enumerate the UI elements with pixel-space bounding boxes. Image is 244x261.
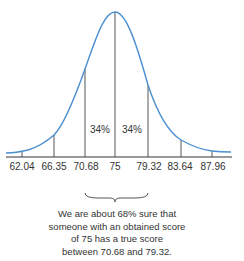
caption: We are about 68% sure that someone with … — [0, 208, 234, 258]
bell-curve — [6, 12, 231, 153]
tick-label: 79.32 — [136, 161, 161, 172]
percent-label-right: 34% — [122, 124, 142, 135]
tick-label: 66.35 — [41, 161, 66, 172]
tick-label: 87.96 — [200, 161, 225, 172]
caption-line: of 75 has a true score — [0, 233, 234, 246]
caption-line: We are about 68% sure that — [0, 208, 234, 221]
caption-line: between 70.68 and 79.32. — [0, 246, 234, 259]
tick-label: 62.04 — [9, 161, 34, 172]
tick-label: 83.64 — [167, 161, 192, 172]
tick-label: 70.68 — [73, 161, 98, 172]
caption-line: someone with an obtained score — [0, 221, 234, 234]
brace — [85, 193, 148, 202]
percent-label-left: 34% — [90, 124, 110, 135]
tick-label: 75 — [109, 161, 120, 172]
